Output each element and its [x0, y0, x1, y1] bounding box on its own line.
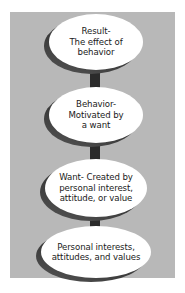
node-want: Want- Created by personal interest, atti…	[43, 159, 147, 221]
node-result: Result- The effect of behavior	[47, 14, 143, 74]
node-ellipse: Want- Created by personal interest, atti…	[45, 159, 147, 217]
node-label: Result- The effect of behavior	[69, 26, 122, 58]
node-label: Want- Created by personal interest, atti…	[59, 172, 133, 204]
node-label: Personal interests, attitudes, and value…	[52, 242, 141, 263]
node-label: Behavior- Motivated by a want	[69, 99, 124, 131]
node-ellipse: Behavior- Motivated by a want	[49, 87, 143, 143]
node-ellipse: Result- The effect of behavior	[49, 14, 143, 70]
node-behavior: Behavior- Motivated by a want	[47, 87, 143, 147]
node-personal-interests: Personal interests, attitudes, and value…	[39, 226, 151, 282]
node-ellipse: Personal interests, attitudes, and value…	[41, 226, 151, 278]
